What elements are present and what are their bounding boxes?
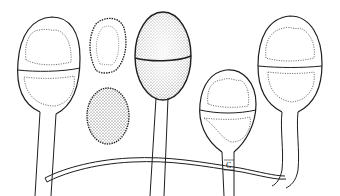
spore-illustration: C — [0, 0, 340, 196]
illustration-canvas: C — [0, 0, 340, 196]
teliospore-left — [18, 17, 80, 196]
teliospore-right — [258, 16, 322, 188]
teliospore-dark — [135, 12, 191, 196]
label-c: C — [226, 161, 231, 170]
teliospore-middle — [200, 70, 256, 196]
spore-punctate — [87, 88, 129, 144]
spore-echinulate — [90, 18, 126, 73]
